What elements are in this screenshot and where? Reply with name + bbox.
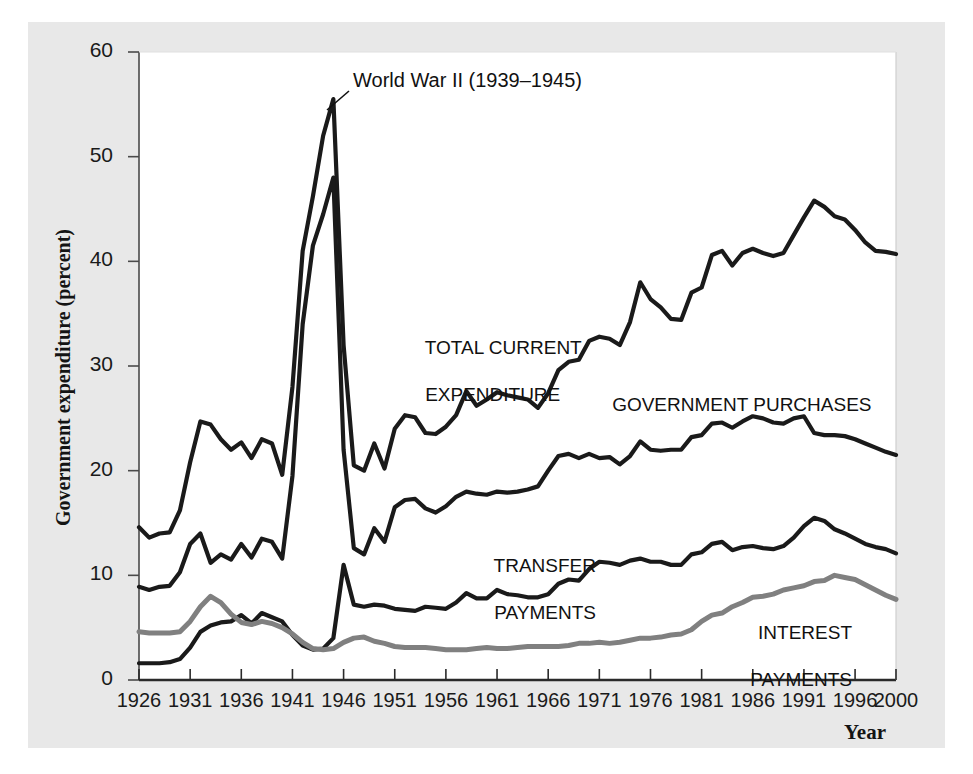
series-label-interest-line2: PAYMENTS <box>750 669 852 690</box>
series-label-purchases-line1: GOVERNMENT PURCHASES <box>612 394 871 415</box>
series-label-transfer-line2: PAYMENTS <box>494 602 596 623</box>
series-label-total-line1: TOTAL CURRENT <box>425 337 582 358</box>
series-label-transfer-payments: TRANSFER PAYMENTS <box>380 531 596 647</box>
series-label-interest-payments: INTEREST PAYMENTS <box>620 598 852 714</box>
y-tick-label: 60 <box>67 38 113 62</box>
y-tick-label: 40 <box>67 247 113 271</box>
series-label-total-current-expenditure: TOTAL CURRENT EXPENDITURE <box>404 313 582 429</box>
series-label-government-purchases: GOVERNMENT PURCHASES <box>591 370 871 440</box>
y-tick-label: 10 <box>67 561 113 585</box>
series-label-interest-line1: INTEREST <box>758 622 852 643</box>
series-label-total-line2: EXPENDITURE <box>425 384 560 405</box>
y-tick-label: 20 <box>67 457 113 481</box>
x-axis-title: Year <box>844 720 886 745</box>
y-tick-label: 50 <box>67 143 113 167</box>
annotation-world-war-2: World War II (1939–1945) <box>353 69 582 92</box>
x-tick-label: 2000 <box>866 689 926 712</box>
y-tick-label: 0 <box>67 666 113 690</box>
y-axis-title: Government expenditure (percent) <box>52 229 75 526</box>
y-tick-label: 30 <box>67 352 113 376</box>
figure-container: Government expenditure (percent) 0102030… <box>0 0 973 774</box>
series-label-transfer-line1: TRANSFER <box>494 555 596 576</box>
